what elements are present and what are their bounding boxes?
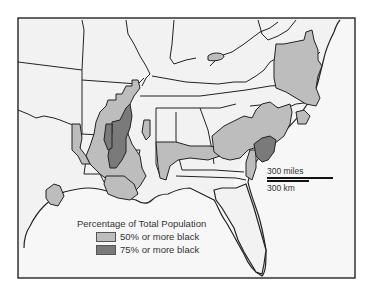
scale-miles-bar: [267, 177, 333, 179]
legend-item-label: 50% or more black: [120, 231, 199, 242]
scale-bar: 300 miles 300 km: [267, 166, 333, 193]
legend-item-75: 75% or more black: [96, 244, 237, 255]
legend-title: Percentage of Total Population: [77, 218, 237, 229]
scale-km-bar: [267, 180, 309, 182]
swatch-50-icon: [96, 232, 116, 242]
scale-miles-label: 300 miles: [267, 166, 333, 176]
legend: Percentage of Total Population 50% or mo…: [77, 218, 237, 255]
legend-item-label: 75% or more black: [120, 244, 199, 255]
scale-km-label: 300 km: [267, 183, 333, 193]
swatch-75-icon: [96, 245, 116, 255]
legend-item-50: 50% or more black: [96, 231, 237, 242]
